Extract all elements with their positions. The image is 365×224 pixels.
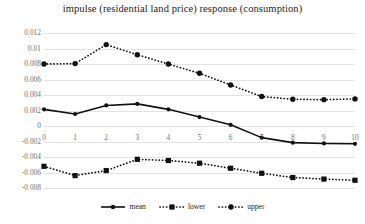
y-tick-label: 0 xyxy=(37,122,41,129)
data-point xyxy=(41,61,46,66)
data-point xyxy=(166,107,170,111)
data-point xyxy=(72,61,77,66)
legend-label: upper xyxy=(247,203,264,211)
x-tick-label: 1 xyxy=(73,134,77,141)
data-point xyxy=(42,107,46,111)
y-tick-label: 0.004 xyxy=(24,91,41,98)
data-point xyxy=(259,171,264,176)
data-point xyxy=(197,115,201,119)
y-tick-label: -0.008 xyxy=(22,184,41,191)
y-axis-tick-labels: 0.0120.010.0080.0060.0040.0020-0.002-0.0… xyxy=(0,33,41,188)
legend-swatch-lower xyxy=(159,203,185,211)
data-point xyxy=(104,42,109,47)
data-point xyxy=(135,52,140,57)
legend-item-upper[interactable]: upper xyxy=(218,203,264,211)
x-tick-label: 5 xyxy=(198,134,202,141)
data-point xyxy=(166,61,171,66)
data-point xyxy=(259,94,264,99)
y-tick-label: 0.008 xyxy=(24,60,41,67)
x-tick-label: 3 xyxy=(135,134,139,141)
data-point xyxy=(352,178,357,183)
x-tick-label: 8 xyxy=(291,134,295,141)
plot-area xyxy=(44,33,355,188)
y-tick-label: -0.002 xyxy=(22,138,41,145)
chart-legend: meanlowerupper xyxy=(0,203,365,211)
y-tick-label: 0.002 xyxy=(24,107,41,114)
data-point xyxy=(352,96,357,101)
x-tick-label: 10 xyxy=(351,134,358,141)
legend-label: mean xyxy=(129,203,145,211)
data-point xyxy=(197,71,202,76)
data-point xyxy=(135,157,140,162)
data-point xyxy=(73,112,77,116)
y-tick-label: 0.012 xyxy=(24,29,41,36)
impulse-response-chart: impulse (residential land price) respons… xyxy=(0,0,365,224)
y-tick-label: -0.006 xyxy=(22,169,41,176)
series-layer xyxy=(44,33,355,188)
data-point xyxy=(41,164,46,169)
data-point xyxy=(321,97,326,102)
data-point xyxy=(166,158,171,163)
data-point xyxy=(229,123,233,127)
data-point xyxy=(104,168,109,173)
data-point xyxy=(104,103,108,107)
data-point xyxy=(197,161,202,166)
data-point xyxy=(228,82,233,87)
x-axis-tick-labels: 012345678910 xyxy=(44,134,355,146)
x-tick-label: 0 xyxy=(42,134,46,141)
data-point xyxy=(290,175,295,180)
series-upper xyxy=(41,42,357,102)
x-tick-label: 4 xyxy=(167,134,171,141)
data-point xyxy=(73,173,78,178)
x-tick-label: 7 xyxy=(260,134,264,141)
legend-item-lower[interactable]: lower xyxy=(159,203,205,211)
data-point xyxy=(321,176,326,181)
legend-label: lower xyxy=(188,203,205,211)
x-tick-label: 9 xyxy=(322,134,326,141)
data-point xyxy=(135,102,139,106)
data-point xyxy=(290,97,295,102)
legend-swatch-upper xyxy=(218,203,244,211)
legend-swatch-mean xyxy=(100,203,126,211)
legend-item-mean[interactable]: mean xyxy=(100,203,145,211)
y-tick-label: -0.004 xyxy=(22,153,41,160)
chart-title: impulse (residential land price) respons… xyxy=(0,3,365,14)
x-tick-label: 6 xyxy=(229,134,233,141)
data-point xyxy=(228,166,233,171)
x-tick-label: 2 xyxy=(104,134,108,141)
y-tick-label: 0.01 xyxy=(28,45,41,52)
y-tick-label: 0.006 xyxy=(24,76,41,83)
series-lower xyxy=(41,157,357,183)
gridline xyxy=(44,188,355,189)
